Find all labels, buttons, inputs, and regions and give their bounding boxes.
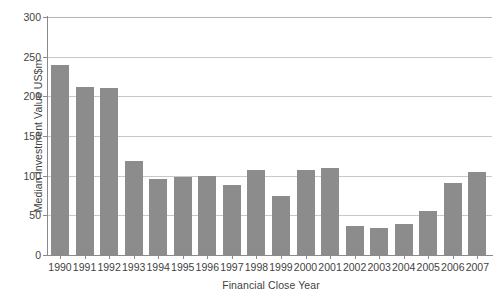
bar bbox=[370, 228, 388, 255]
y-axis-tick bbox=[43, 96, 48, 97]
x-axis-tick bbox=[60, 255, 61, 259]
x-axis-tick bbox=[207, 255, 208, 259]
x-axis-tick bbox=[183, 255, 184, 259]
y-axis-tick bbox=[43, 255, 48, 256]
x-axis-tick bbox=[232, 255, 233, 259]
y-axis-tick-label: 50 bbox=[1, 209, 41, 221]
x-axis-tick bbox=[256, 255, 257, 259]
bar bbox=[198, 176, 216, 255]
x-axis-tick bbox=[355, 255, 356, 259]
y-axis-tick bbox=[43, 215, 48, 216]
x-axis-title: Financial Close Year bbox=[0, 279, 498, 291]
x-axis-tick bbox=[453, 255, 454, 259]
bar bbox=[297, 170, 315, 255]
x-axis-tick bbox=[379, 255, 380, 259]
x-axis-tick bbox=[428, 255, 429, 259]
bar bbox=[346, 226, 364, 255]
bar bbox=[272, 196, 290, 255]
y-axis-tick-label: 0 bbox=[1, 249, 41, 261]
bar bbox=[395, 224, 413, 255]
bar bbox=[100, 88, 118, 255]
y-axis-tick bbox=[43, 136, 48, 137]
x-axis-labels: 1990199119921993199419951996199719981999… bbox=[47, 261, 495, 277]
bar bbox=[444, 183, 462, 255]
bar bbox=[174, 177, 192, 255]
y-axis-tick bbox=[43, 176, 48, 177]
bar bbox=[125, 161, 143, 255]
bar bbox=[247, 170, 265, 255]
x-axis-tick bbox=[330, 255, 331, 259]
x-axis-tick bbox=[158, 255, 159, 259]
x-axis-tick bbox=[134, 255, 135, 259]
x-axis-tick bbox=[404, 255, 405, 259]
y-axis-tick-label: 200 bbox=[1, 90, 41, 102]
bar bbox=[321, 168, 339, 255]
y-axis-tick-label: 250 bbox=[1, 51, 41, 63]
x-axis-tick bbox=[109, 255, 110, 259]
x-axis-tick bbox=[85, 255, 86, 259]
y-axis-tick bbox=[43, 17, 48, 18]
bar bbox=[419, 211, 437, 255]
bar-chart: Median Investment Value US$m 05010015020… bbox=[0, 0, 498, 300]
bar bbox=[51, 65, 69, 255]
y-axis-tick-label: 150 bbox=[1, 130, 41, 142]
y-axis-tick-label: 300 bbox=[1, 11, 41, 23]
bar bbox=[223, 185, 241, 255]
x-axis-tick bbox=[281, 255, 282, 259]
bars-layer bbox=[47, 17, 492, 255]
x-axis-tick-label: 2007 bbox=[461, 261, 493, 273]
bar bbox=[76, 87, 94, 255]
y-axis-labels: 050100150200250300 bbox=[0, 0, 41, 300]
y-axis-tick-label: 100 bbox=[1, 170, 41, 182]
bar bbox=[468, 172, 486, 255]
y-axis-tick bbox=[43, 57, 48, 58]
x-axis-tick bbox=[477, 255, 478, 259]
bar bbox=[149, 179, 167, 255]
x-axis-tick bbox=[306, 255, 307, 259]
